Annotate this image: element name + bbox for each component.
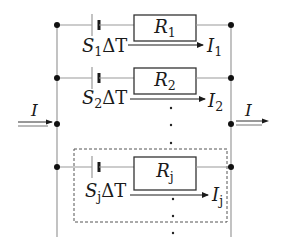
circuit-diagram: S1ΔT R1 I1 S2ΔT R2 I2 SjΔT Rj Ij I I bbox=[0, 0, 282, 247]
source-label-2: S2ΔT bbox=[82, 89, 127, 110]
input-current-label: I bbox=[31, 102, 38, 119]
ellipsis-dots-lower bbox=[172, 198, 174, 234]
resistor-label-1: R1 bbox=[134, 18, 196, 39]
current-label-j: Ij bbox=[212, 186, 223, 207]
source-label-1: S1ΔT bbox=[82, 37, 127, 58]
ellipsis-dots-upper bbox=[170, 107, 172, 144]
resistor-label-2: R2 bbox=[134, 71, 196, 92]
output-current-arrow bbox=[236, 119, 269, 126]
source-label-j: SjΔT bbox=[85, 182, 126, 203]
resistor-label-j: Rj bbox=[134, 162, 196, 183]
output-current-label: I bbox=[245, 102, 252, 119]
current-label-2: I2 bbox=[208, 92, 223, 113]
current-label-1: I1 bbox=[207, 37, 222, 58]
input-current-arrow bbox=[18, 120, 53, 127]
branch-j bbox=[54, 149, 234, 222]
